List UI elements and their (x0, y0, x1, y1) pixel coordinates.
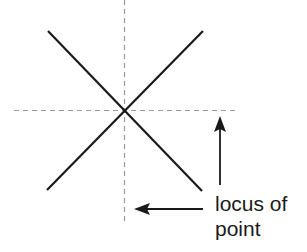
locus-label-line2: point (215, 217, 261, 241)
locus-label-line1: locus of (215, 192, 287, 216)
arrow-up-icon (214, 116, 226, 185)
arrow-left-icon (134, 203, 203, 215)
